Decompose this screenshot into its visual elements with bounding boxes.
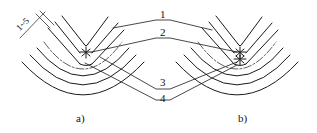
elbow-a — [20, 11, 144, 95]
elbow-b-groove-left — [216, 16, 238, 44]
elbow-a-outer-wall-1 — [22, 62, 144, 95]
callout-2: 2 — [160, 27, 166, 38]
elbow-b-bevel-right — [246, 23, 272, 53]
dimension-ext-1 — [36, 14, 50, 28]
elbow-a-groove-left — [62, 16, 84, 44]
callout-3: 3 — [160, 77, 166, 88]
elbow-b-bevel-left — [209, 22, 234, 53]
elbow-a-bevel-left — [55, 22, 80, 53]
caption-a: a) — [76, 113, 85, 124]
elbow-a-root-top — [84, 44, 88, 46]
diagram-canvas — [0, 0, 317, 133]
leader-2 — [92, 38, 237, 52]
caption-b: b) — [238, 113, 247, 124]
elbow-b-weld-bead-lower — [234, 55, 246, 65]
elbow-a-groove-right — [88, 17, 108, 44]
elbow-b-groove-right — [242, 17, 262, 44]
callout-4: 4 — [160, 93, 166, 104]
elbow-b — [176, 16, 298, 95]
leader-3 — [100, 57, 237, 89]
elbow-b-outer-wall-1 — [176, 62, 298, 95]
callout-1: 1 — [160, 9, 166, 20]
dimension-ext-2 — [40, 11, 54, 25]
elbow-b-root-top — [238, 44, 242, 46]
elbow-a-weld-bead — [80, 47, 92, 58]
elbow-a-outer-wall-2 — [30, 55, 136, 85]
